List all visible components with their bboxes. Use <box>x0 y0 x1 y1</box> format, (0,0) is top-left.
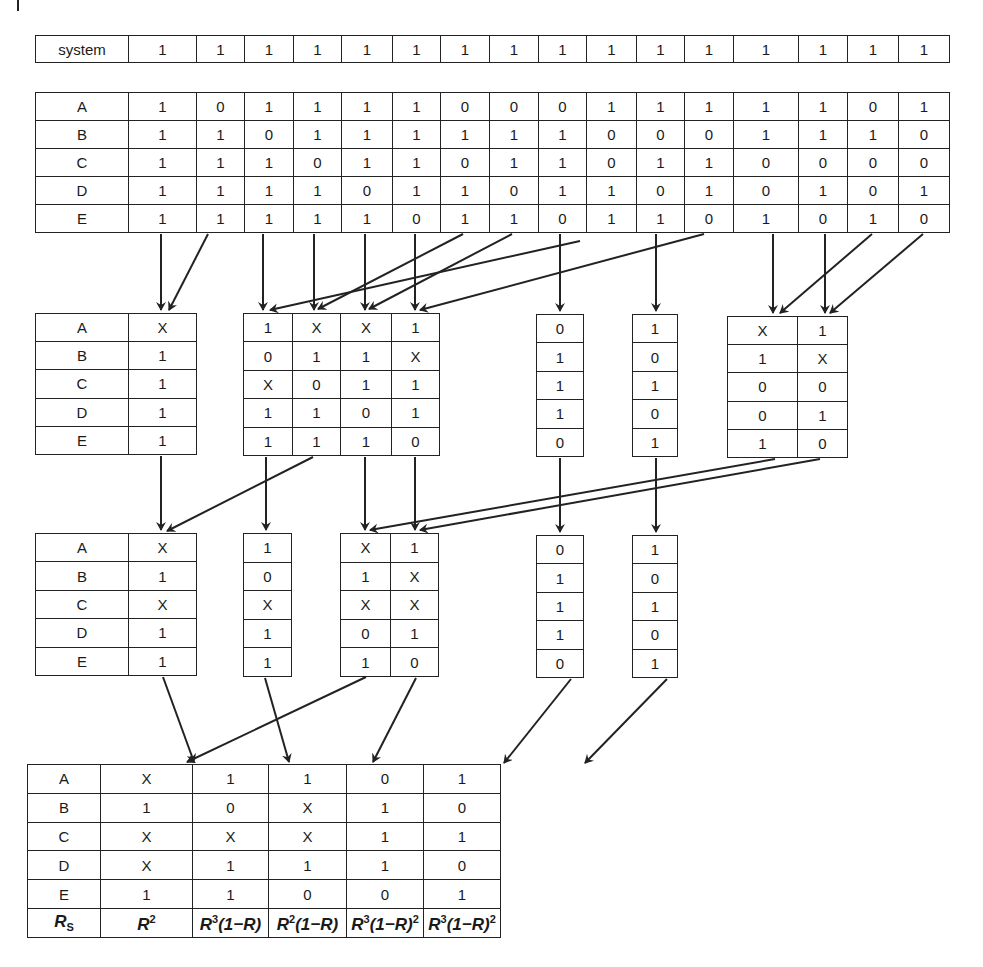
system-cell: 1 <box>490 36 539 63</box>
state-cell: 0 <box>537 649 584 677</box>
state-cell: 1 <box>342 93 393 121</box>
system-cell: 1 <box>342 36 393 63</box>
state-cell: 1 <box>441 121 490 149</box>
state-cell: 1 <box>587 205 637 233</box>
component-label: A <box>36 93 129 121</box>
group-row: 1101 <box>244 399 440 427</box>
formula-cell: R3(1−R)2 <box>347 909 424 938</box>
state-cell: 1 <box>129 426 197 454</box>
level2-group2-table: 1XX1011XX01111011110 <box>243 313 440 456</box>
state-cell: 0 <box>728 401 798 429</box>
state-cell: 1 <box>685 93 734 121</box>
state-cell: 0 <box>392 427 440 455</box>
state-cell: X <box>391 591 439 620</box>
formula-cell: R2(1−R) <box>269 909 347 938</box>
result-cell: 1 <box>101 880 193 909</box>
state-cell: 0 <box>728 373 798 401</box>
state-cell: 0 <box>244 562 292 591</box>
state-cell: 1 <box>537 621 584 649</box>
system-cell: 1 <box>441 36 490 63</box>
group-row: D1 <box>36 398 197 426</box>
state-cell: 1 <box>341 648 391 677</box>
group-row: B1 <box>36 562 197 590</box>
state-cell: 1 <box>393 149 441 177</box>
group-row: CX <box>36 590 197 618</box>
group-row: 1 <box>244 648 292 677</box>
result-cell: 1 <box>101 793 193 822</box>
state-cell: 0 <box>685 121 734 149</box>
group-row: 10 <box>728 429 848 457</box>
formula-base: R <box>277 914 289 933</box>
result-cell: X <box>269 793 347 822</box>
result-row-e: E11001 <box>28 880 501 909</box>
state-cell: 1 <box>633 592 678 620</box>
result-cell: 0 <box>347 880 424 909</box>
result-row-c: CXXX11 <box>28 822 501 851</box>
state-cell: 1 <box>294 121 342 149</box>
level3-group5-table: 10101 <box>632 535 678 678</box>
state-cell: 0 <box>537 315 584 343</box>
state-cell: X <box>798 345 848 373</box>
formula-base: R <box>428 914 440 933</box>
component-label: E <box>36 647 129 675</box>
state-cell: 1 <box>441 177 490 205</box>
state-cell: 1 <box>637 93 685 121</box>
component-label: A <box>36 534 129 562</box>
state-cell: 1 <box>294 205 342 233</box>
state-cell: 0 <box>587 149 637 177</box>
state-cell: X <box>293 314 341 342</box>
state-cell: 1 <box>490 121 539 149</box>
state-cell: 0 <box>294 149 342 177</box>
system-cell: 1 <box>899 36 950 63</box>
state-cell: 1 <box>197 177 245 205</box>
state-cell: 0 <box>685 205 734 233</box>
state-cell: 1 <box>539 121 587 149</box>
state-cell: 1 <box>587 93 637 121</box>
level2-group4-table: 10101 <box>632 314 678 457</box>
state-cell: 1 <box>129 93 197 121</box>
state-cell: 0 <box>245 121 294 149</box>
formula-base: R <box>351 914 363 933</box>
state-cell: 1 <box>537 400 584 428</box>
result-cell: 0 <box>424 793 501 822</box>
result-cell: 1 <box>424 880 501 909</box>
state-cell: 0 <box>798 429 848 457</box>
state-cell: 0 <box>734 177 799 205</box>
state-cell: 1 <box>244 534 292 563</box>
component-label: B <box>28 793 101 822</box>
state-cell: 1 <box>539 149 587 177</box>
system-cell: 1 <box>129 36 197 63</box>
result-row-b: B10X10 <box>28 793 501 822</box>
state-cell: 0 <box>848 149 899 177</box>
state-cell: 0 <box>539 93 587 121</box>
result-cell: 1 <box>193 880 269 909</box>
component-label: D <box>36 619 129 647</box>
state-cell: 0 <box>633 621 678 649</box>
component-label: E <box>36 205 129 233</box>
state-cell: 1 <box>294 93 342 121</box>
state-cell: 1 <box>633 371 678 399</box>
state-cell: 1 <box>734 121 799 149</box>
state-cell: 0 <box>799 205 848 233</box>
state-cell: 1 <box>798 317 848 345</box>
state-cell: 1 <box>244 314 293 342</box>
level3-group4-table: 01110 <box>536 535 584 678</box>
state-cell: 1 <box>129 121 197 149</box>
rs-base: R <box>54 912 66 931</box>
formula-base: R <box>137 914 149 933</box>
state-cell: 0 <box>734 149 799 177</box>
state-cell: X <box>341 534 391 563</box>
result-cell: 1 <box>347 793 424 822</box>
state-cell: 1 <box>245 93 294 121</box>
state-cell: X <box>728 317 798 345</box>
group-row: 1 <box>244 619 292 648</box>
level3-group1-table: AXB1CXD1E1 <box>35 533 197 676</box>
state-cell: 0 <box>848 177 899 205</box>
reliability-row: RS R2 R3(1−R) R2(1−R) R3(1−R)2 R3(1−R)2 <box>28 909 501 938</box>
state-cell: X <box>129 534 197 562</box>
state-row-b: B1101111110001110 <box>36 121 950 149</box>
state-cell: 1 <box>129 619 197 647</box>
group-row: X <box>244 591 292 620</box>
group-row: 1 <box>537 592 584 620</box>
result-cell: X <box>193 822 269 851</box>
